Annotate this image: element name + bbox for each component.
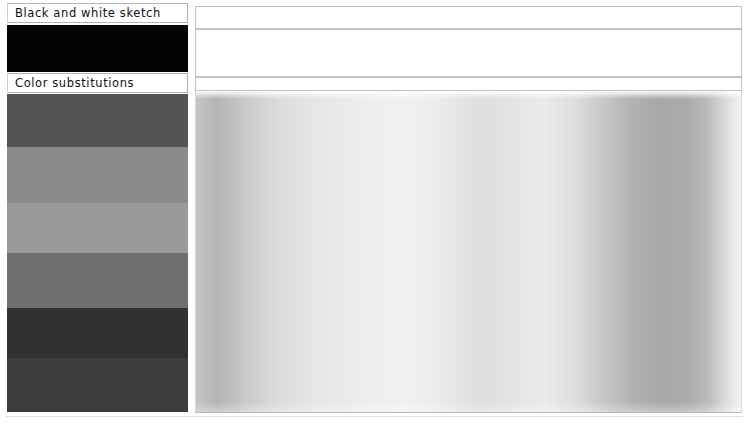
white-box-lower [195, 77, 742, 91]
preview-panel [195, 0, 745, 424]
label-color-substitutions: Color substitutions [7, 73, 188, 93]
label-black-and-white-sketch: Black and white sketch [7, 3, 188, 23]
color-band-5 [7, 308, 188, 358]
color-band-6 [7, 358, 188, 412]
gradient-bottom-fade [196, 402, 741, 412]
white-box-top [195, 6, 742, 29]
color-band-1 [7, 94, 188, 147]
frame-bottom-rule [6, 416, 743, 417]
gradient-top-fade [196, 91, 741, 99]
gradient-fill [196, 91, 741, 412]
black-swatch [7, 25, 188, 72]
white-box-middle [195, 29, 742, 77]
color-band-4 [7, 253, 188, 308]
color-reference-column: Black and white sketch Color substitutio… [0, 0, 188, 424]
grayscale-gradient-preview [195, 91, 742, 413]
screenshot-root: Black and white sketch Color substitutio… [0, 0, 745, 424]
color-band-3 [7, 203, 188, 253]
color-band-2 [7, 147, 188, 203]
